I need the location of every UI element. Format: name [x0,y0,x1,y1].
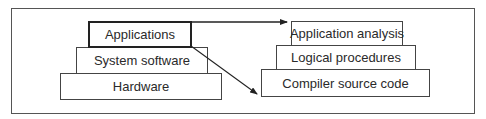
box-label: Applications [105,27,175,42]
box-compiler-source-code: Compiler source code [261,69,430,97]
box-label: System software [94,53,190,68]
box-applications: Applications [88,21,192,48]
box-logical-procedures: Logical procedures [276,45,416,70]
box-label: Application analysis [290,26,404,41]
box-application-analysis: Application analysis [291,21,403,46]
box-hardware: Hardware [60,73,222,100]
box-label: Logical procedures [291,50,401,65]
box-label: Compiler source code [282,76,408,91]
box-system-software: System software [76,47,208,74]
box-label: Hardware [113,79,169,94]
